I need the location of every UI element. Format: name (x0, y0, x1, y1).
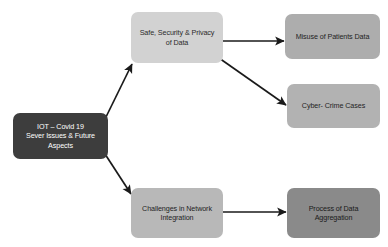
edge-safety-to-cyber (219, 58, 286, 105)
node-challenges-in-network-integration[interactable]: Challenges in Network Integration (131, 188, 223, 238)
node-cyber-crime-cases[interactable]: Cyber- Crime Cases (287, 84, 380, 128)
node-root-label: IOT – Covid 19 Sever Issues & Future Asp… (26, 122, 95, 150)
node-safety-security-privacy[interactable]: Safe, Security & Privacy of Data (131, 12, 223, 63)
node-misuse-of-patients-data[interactable]: Misuse of Patients Data (285, 14, 380, 59)
node-aggregation-label: Process of Data Aggregation (309, 204, 359, 222)
edge-root-to-safety (105, 64, 132, 119)
node-misuse-label: Misuse of Patients Data (296, 32, 370, 41)
node-safety-label: Safe, Security & Privacy of Data (140, 28, 215, 46)
diagram-canvas: IOT – Covid 19 Sever Issues & Future Asp… (0, 0, 388, 247)
node-challenges-label: Challenges in Network Integration (142, 204, 212, 222)
edge-root-to-challenges (105, 154, 131, 194)
node-root[interactable]: IOT – Covid 19 Sever Issues & Future Asp… (13, 113, 108, 159)
node-process-of-data-aggregation[interactable]: Process of Data Aggregation (287, 188, 380, 238)
node-cyber-label: Cyber- Crime Cases (302, 101, 365, 110)
